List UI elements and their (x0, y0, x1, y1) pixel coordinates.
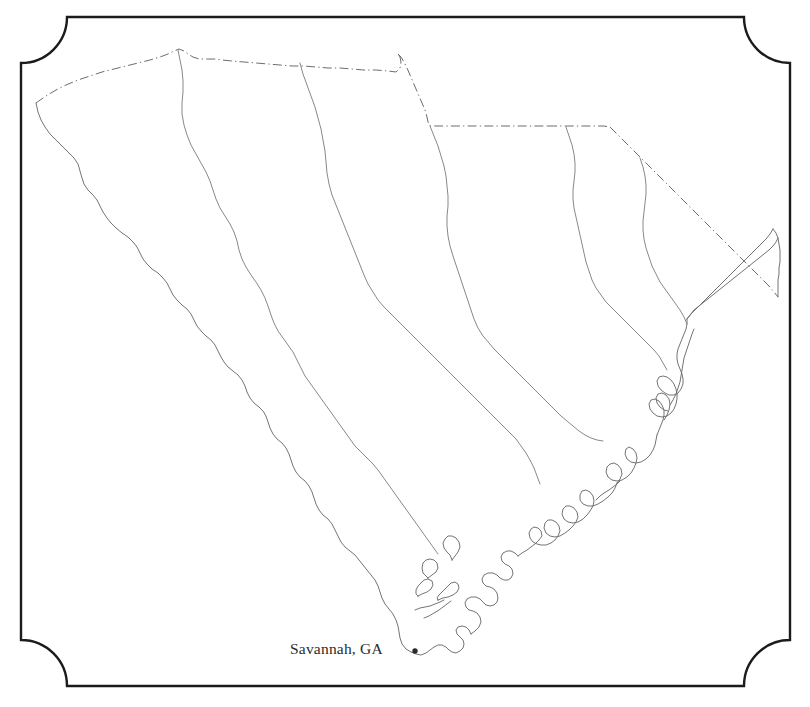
coast-inlet-cluster-south (437, 582, 459, 600)
city-dot-marker (412, 648, 417, 653)
coast-pawleys-island (670, 329, 694, 405)
coast-winyah-bay (657, 319, 687, 395)
internal-division-line-1 (178, 50, 438, 554)
northeastern-state-border-diagonal (610, 127, 778, 297)
northeastern-state-border-upper (548, 126, 610, 127)
savannah-river-mouth (411, 626, 471, 655)
coast-st-helena (422, 559, 438, 578)
coast-edisto (416, 579, 433, 596)
western-river-border (36, 103, 411, 652)
coast-charleston-harbor (606, 435, 657, 483)
internal-division-line-5 (640, 158, 687, 324)
coast-beaufort-islands (443, 536, 460, 560)
map-figure: Savannah, GA (0, 0, 810, 707)
decorative-frame (21, 17, 790, 686)
map-canvas (0, 0, 810, 707)
internal-division-line-4 (566, 127, 667, 370)
coast-hilton-head (465, 551, 518, 634)
coast-marsh-detail-2 (424, 601, 451, 618)
city-label: Savannah, GA (290, 641, 383, 657)
coast-marsh-detail-1 (415, 600, 444, 610)
northern-border-notch (398, 54, 548, 126)
coast-little-river-tip (773, 229, 780, 297)
internal-division-line-3 (430, 126, 603, 441)
northern-state-border (36, 49, 401, 103)
